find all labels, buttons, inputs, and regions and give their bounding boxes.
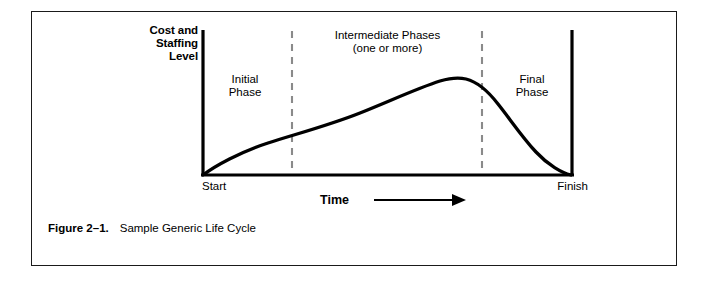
figure-caption-number: Figure 2–1.	[48, 222, 109, 234]
x-axis-time-label: Time	[320, 193, 349, 207]
final-phase-label-line1: Final	[520, 73, 545, 85]
x-axis-finish-label: Finish	[540, 180, 588, 193]
initial-phase-label-line1: Initial	[232, 73, 259, 85]
y-axis-label-line1: Cost and	[150, 24, 198, 36]
initial-phase-label: InitialPhase	[208, 73, 282, 99]
y-axis-label-line3: Level	[169, 50, 198, 62]
intermediate-phases-label-line2: (one or more)	[353, 42, 423, 54]
y-axis-label-line2: Staffing	[156, 37, 198, 49]
initial-phase-label-line2: Phase	[229, 86, 262, 98]
final-phase-label-line2: Phase	[516, 86, 549, 98]
y-axis-label: Cost andStaffingLevel	[110, 24, 198, 63]
final-phase-label: FinalPhase	[496, 73, 568, 99]
figure-caption: Figure 2–1.Sample Generic Life Cycle	[48, 222, 256, 234]
intermediate-phases-label: Intermediate Phases(one or more)	[310, 29, 465, 55]
intermediate-phases-label-line1: Intermediate Phases	[335, 29, 440, 41]
x-axis-start-label: Start	[202, 180, 226, 193]
figure-caption-text: Sample Generic Life Cycle	[120, 222, 256, 234]
